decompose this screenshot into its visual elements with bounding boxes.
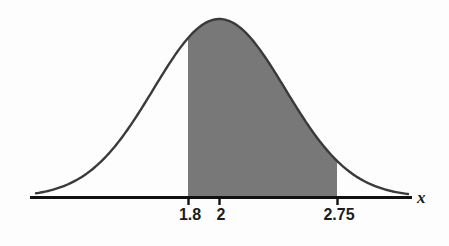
tick-label-lower-bound: 1.8 [179,207,201,223]
tick-label-mean: 2 [217,207,226,223]
x-axis-label: x [417,189,426,206]
normal-distribution-figure: 1.8 2 2.75 x [0,0,449,246]
tick-label-upper-bound: 2.75 [323,207,354,223]
shaded-region-1.8-to-2.75 [188,19,337,197]
